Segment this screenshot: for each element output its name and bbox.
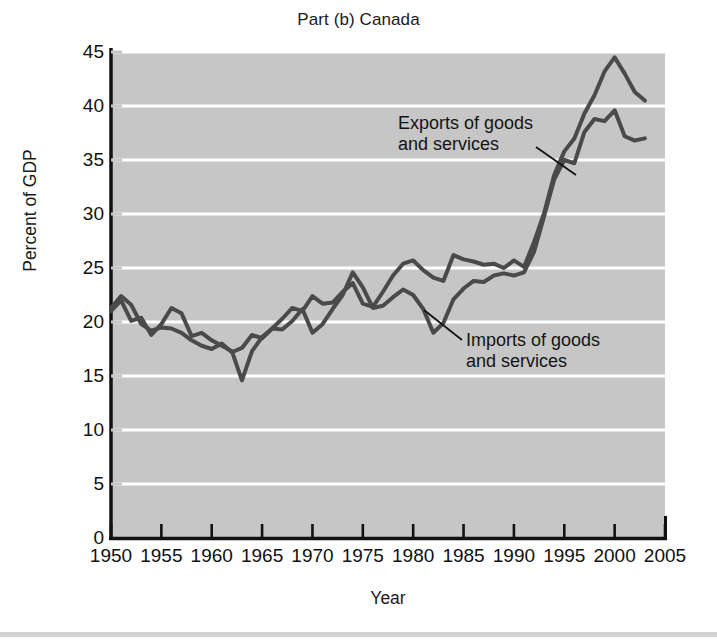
footer-strip [0, 632, 717, 637]
chart-figure: Part (b) Canada Percent of GDP Year 0510… [0, 0, 717, 641]
imports-annotation-line1: Imports of goods [466, 330, 600, 351]
exports-annotation-line1: Exports of goods [398, 113, 533, 134]
exports-annotation: Exports of goods and services [398, 113, 533, 155]
imports-annotation: Imports of goods and services [466, 330, 600, 372]
xtick-label-2005: 2005 [635, 546, 695, 565]
x-axis-tick-labels: 1950195519601965197019751980198519901995… [0, 0, 717, 641]
exports-annotation-line2: and services [398, 134, 533, 155]
imports-annotation-line2: and services [466, 351, 600, 372]
